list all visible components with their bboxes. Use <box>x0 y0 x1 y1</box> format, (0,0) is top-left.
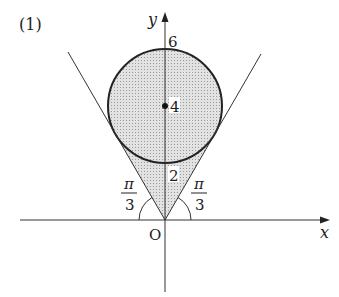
angle-arc-right <box>178 198 191 221</box>
left-angle-numerator: π <box>123 175 135 193</box>
center-value-label: 4 <box>170 98 180 116</box>
top-value-label: 6 <box>168 33 178 51</box>
center-point <box>162 103 168 109</box>
x-axis-label: x <box>320 223 329 242</box>
right-angle-numerator: π <box>193 175 205 193</box>
angle-arc-left <box>139 198 152 221</box>
origin-label: O <box>149 226 161 244</box>
y-axis-arrow-icon <box>162 12 169 22</box>
diagram: (1) y x O 6 4 2 π 3 π 3 <box>0 0 339 297</box>
problem-label: (1) <box>19 15 42 34</box>
y-axis-label: y <box>147 10 158 29</box>
bottom-value-label: 2 <box>169 167 179 185</box>
right-angle-denominator: 3 <box>195 196 205 214</box>
left-angle-denominator: 3 <box>125 196 135 214</box>
